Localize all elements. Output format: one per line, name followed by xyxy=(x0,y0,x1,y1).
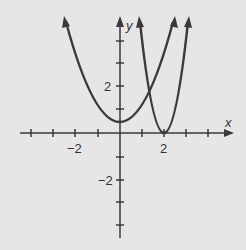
arrow-icon xyxy=(184,16,192,28)
y-axis-arrow-icon xyxy=(116,16,124,27)
coordinate-plane: x y −2 2 2 −2 xyxy=(0,0,246,250)
arrow-icon xyxy=(170,16,178,28)
x-axis-label: x xyxy=(224,115,232,130)
y-tick-label-neg2: −2 xyxy=(98,173,113,188)
x-tick-label-pos2: 2 xyxy=(160,141,167,156)
curve-4-x-minus-2-squared xyxy=(140,22,188,133)
x-tick-label-neg2: −2 xyxy=(67,141,82,156)
y-axis-label: y xyxy=(125,18,134,33)
arrow-icon xyxy=(62,16,70,28)
y-tick-label-pos2: 2 xyxy=(104,79,111,94)
x-axis-arrow-icon xyxy=(224,129,234,137)
arrow-icon xyxy=(136,16,144,28)
